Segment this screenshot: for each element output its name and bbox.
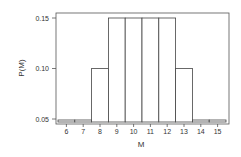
x-tick-label: 8 [98, 128, 102, 135]
bar-15 [209, 120, 226, 122]
x-tick-label: 14 [197, 128, 205, 135]
x-tick-label: 6 [64, 128, 68, 135]
x-tick-label: 12 [163, 128, 171, 135]
x-tick-label: 15 [214, 128, 222, 135]
bar-13 [176, 69, 193, 123]
bar-10 [125, 18, 142, 122]
bar-7 [75, 120, 92, 122]
x-tick-label: 10 [130, 128, 138, 135]
y-tick-label: 0.15 [35, 15, 49, 22]
y-tick-label: 0.05 [35, 116, 49, 123]
x-tick-label: 9 [115, 128, 119, 135]
x-axis: 6789101112131415 [64, 124, 221, 135]
y-axis-label: P(M) [17, 59, 26, 77]
bar-11 [142, 18, 159, 122]
x-tick-label: 7 [81, 128, 85, 135]
bar-12 [159, 18, 176, 122]
bar-6 [58, 120, 75, 122]
x-axis-label: M [138, 140, 145, 149]
x-tick-label: 13 [180, 128, 188, 135]
bars-group [58, 18, 226, 122]
y-tick-label: 0.10 [35, 65, 49, 72]
bar-9 [108, 18, 125, 122]
histogram-chart: 0.050.100.15 6789101112131415 M P(M) [0, 0, 241, 157]
x-tick-label: 11 [147, 128, 154, 135]
bar-8 [92, 69, 109, 123]
bar-14 [192, 120, 209, 122]
y-axis: 0.050.100.15 [35, 15, 56, 123]
